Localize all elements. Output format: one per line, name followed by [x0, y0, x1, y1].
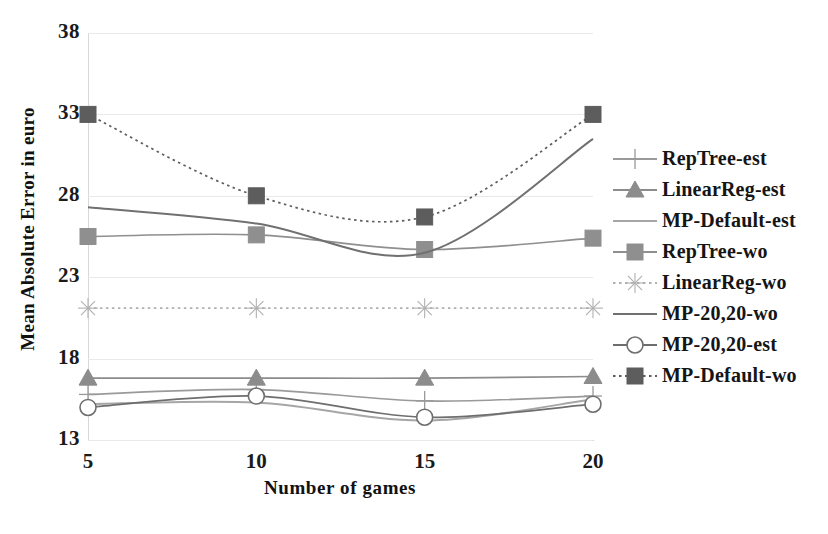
legend-key-triangle-marker	[612, 180, 658, 200]
legend-item[interactable]: MP-20,20-wo	[612, 298, 824, 329]
x-tick-label: 10	[226, 449, 286, 474]
star-marker	[246, 298, 266, 318]
legend-label: RepTree-est	[662, 147, 767, 170]
series-mp-default-est	[88, 399, 593, 420]
triangle-marker	[584, 368, 602, 384]
series-line	[88, 399, 593, 420]
legend-label: MP-Default-wo	[662, 364, 797, 387]
chart-figure: 131823283338 5101520 Number of games Mea…	[0, 0, 828, 534]
star-marker	[625, 273, 645, 293]
y-tick-label: 13	[46, 426, 80, 451]
square-marker	[417, 242, 433, 258]
square-marker	[248, 227, 264, 243]
series-mp-20-20-wo	[88, 139, 593, 256]
gridline	[88, 440, 593, 441]
circle-marker	[80, 399, 96, 415]
star-marker	[583, 298, 603, 318]
y-tick-label: 18	[46, 345, 80, 370]
square-marker	[585, 106, 601, 122]
y-tick-label: 28	[46, 182, 80, 207]
legend-item[interactable]: MP-Default-wo	[612, 360, 824, 391]
triangle-marker	[416, 369, 434, 385]
square-marker	[627, 244, 643, 260]
square-marker	[417, 209, 433, 225]
legend-label: MP-20,20-est	[662, 333, 777, 356]
star-marker	[78, 298, 98, 318]
legend-item[interactable]: RepTree-wo	[612, 236, 824, 267]
legend-label: MP-Default-est	[662, 209, 796, 232]
legend-item[interactable]: RepTree-est	[612, 143, 824, 174]
circle-marker	[248, 388, 264, 404]
legend-swatch	[612, 211, 658, 231]
y-tick-label: 38	[46, 19, 80, 44]
legend-label: LinearReg-est	[662, 178, 786, 201]
legend-swatch	[612, 304, 658, 324]
legend-key-circle-marker	[612, 335, 658, 355]
series-mp-20-20-est	[80, 388, 601, 425]
triangle-marker	[247, 369, 265, 385]
legend: RepTree-estLinearReg-estMP-Default-estRe…	[612, 143, 824, 391]
square-marker	[627, 368, 643, 384]
series-linearreg-wo	[78, 298, 603, 318]
legend-item[interactable]: MP-20,20-est	[612, 329, 824, 360]
x-tick-label: 5	[58, 449, 118, 474]
square-marker	[80, 229, 96, 245]
x-tick-label: 20	[563, 449, 623, 474]
legend-swatch	[612, 149, 658, 169]
legend-swatch	[612, 366, 658, 386]
circle-marker	[417, 409, 433, 425]
legend-key-square-marker	[612, 366, 658, 386]
legend-swatch	[612, 242, 658, 262]
x-axis-title: Number of games	[160, 477, 520, 499]
legend-swatch	[612, 335, 658, 355]
square-marker	[80, 106, 96, 122]
legend-swatch	[612, 180, 658, 200]
legend-key-star-marker	[612, 273, 658, 293]
legend-label: MP-20,20-wo	[662, 302, 778, 325]
legend-key-none-marker	[612, 211, 658, 231]
legend-label: RepTree-wo	[662, 240, 768, 263]
series-reptree-wo	[80, 227, 601, 258]
series-canvas	[88, 33, 593, 440]
series-line	[88, 234, 593, 249]
square-marker	[585, 230, 601, 246]
square-marker	[248, 188, 264, 204]
triangle-marker	[79, 369, 97, 385]
legend-label: LinearReg-wo	[662, 271, 787, 294]
y-axis-title: Mean Absolute Error in euro	[17, 59, 39, 399]
legend-swatch	[612, 273, 658, 293]
circle-marker	[585, 396, 601, 412]
series-mp-default-wo	[80, 106, 601, 225]
legend-item[interactable]: MP-Default-est	[612, 205, 824, 236]
series-line	[88, 139, 593, 256]
series-linearreg-est	[79, 368, 602, 386]
series-line	[88, 389, 593, 401]
legend-item[interactable]: LinearReg-est	[612, 174, 824, 205]
series-line	[88, 377, 593, 379]
legend-key-plus-marker	[612, 149, 658, 169]
x-tick-label: 15	[395, 449, 455, 474]
series-line	[88, 114, 593, 221]
plot-area	[88, 33, 593, 440]
plus-marker	[416, 391, 434, 411]
legend-item[interactable]: LinearReg-wo	[612, 267, 824, 298]
circle-marker	[627, 337, 643, 353]
plus-marker	[626, 149, 644, 169]
y-tick-label: 33	[46, 100, 80, 125]
legend-key-square-marker	[612, 242, 658, 262]
y-tick-label: 23	[46, 263, 80, 288]
legend-key-none-marker	[612, 304, 658, 324]
star-marker	[415, 298, 435, 318]
